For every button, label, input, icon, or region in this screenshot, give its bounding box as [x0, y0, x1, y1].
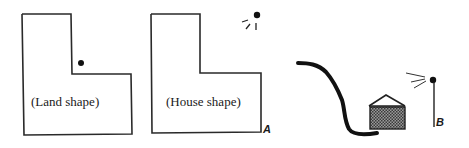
- land-shape-label: (Land shape): [31, 94, 99, 110]
- corner-label-a: A: [263, 123, 271, 135]
- diagram-canvas: [0, 0, 469, 148]
- house-shape-label: (House shape): [166, 94, 241, 110]
- pole-label-b: B: [436, 116, 444, 128]
- lamp-post-icon: [406, 73, 436, 127]
- small-house-icon: [369, 95, 405, 129]
- hillside-curve: [298, 63, 377, 134]
- house-shape-outline: [151, 14, 261, 133]
- land-point-dot: [78, 60, 84, 66]
- sun-icon: [242, 12, 260, 30]
- land-shape-outline: [22, 14, 132, 135]
